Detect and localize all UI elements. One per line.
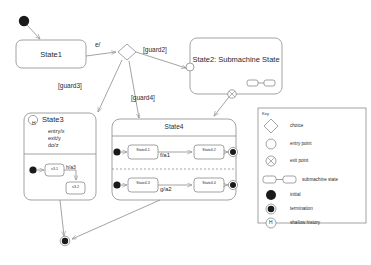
state3-do-action: do/z [48,142,58,148]
edge-initial-to-state1 [27,25,40,39]
state4-r1-transition-label: f/a1 [160,152,170,158]
termination-node-icon [60,236,70,246]
initial-node-icon [19,16,29,26]
edge-state2exit-to-state4 [214,97,229,116]
state3-transition-label: h/a3 [66,164,76,170]
state3-initial-node-icon [29,166,36,173]
edge-choice-to-state3 [98,60,122,112]
state4-r2-transition-label: g/a2 [160,186,172,192]
state4-r2-final-node-icon [228,180,237,189]
exit-point-circle-x-icon[interactable] [228,90,236,98]
edge-state1-to-choice [86,52,116,56]
diagram-canvas: State1 e/ [guard2] [guard3] [guard4] Sta… [0,0,371,265]
state4-r1-final-node-icon [228,147,237,156]
guard4-label: [guard4] [131,94,155,101]
edge-choice-to-state4 [129,61,139,118]
edge-state4-to-termination [72,200,160,239]
state2-label: State2: Submachine State [192,55,280,65]
state3-exit-action: exit/y [48,135,61,141]
state4-sub3-label: State4.3 [128,181,158,185]
state4-r2-initial-node-icon [113,181,120,188]
state4-sub1-label: State4.1 [128,148,158,152]
key-label-submachine-state: submachine state [302,177,338,182]
state4-sub4-label: State4.4 [194,181,224,185]
choice-diamond-icon[interactable] [118,44,136,60]
state4-label: State4 [112,123,236,130]
state3-history-letter: H [32,120,36,126]
key-label-exit-point: exit point [290,158,308,163]
key-label-initial: initial [290,192,300,197]
key-label-shallow-history: shallow history [290,220,320,225]
key-exit-point-circle-x-icon [266,156,276,166]
edge-state3-to-termination [60,200,64,236]
key-termination-node-icon [266,204,276,214]
state1-label: State1 [16,50,86,59]
key-entry-point-circle-icon [266,139,276,149]
edge-choice-to-state2 [136,52,186,68]
key-title: Key [262,111,269,116]
key-label-termination: termination [290,206,313,211]
guard2-label: [guard2] [143,46,167,53]
key-label-entry-point: entry point [290,141,311,146]
guard3-label: [guard3] [58,82,82,89]
state3-label: State3 [42,115,64,124]
key-label-choice: choice [290,123,303,128]
state3-sub2-label: s3.2 [66,185,85,189]
key-initial-node-icon [266,190,276,200]
key-shallow-history-letter: H [269,219,273,225]
trigger-e-label: e/ [95,41,100,48]
state3-entry-action: entry/x [48,128,65,134]
state4-r1-initial-node-icon [113,148,120,155]
state3-sub1-label: s3.1 [45,167,64,171]
state4-sub2-label: State4.2 [194,148,224,152]
